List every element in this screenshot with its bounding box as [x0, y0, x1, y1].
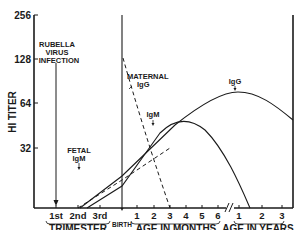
igg-arrow-icon [234, 88, 237, 91]
igm-curve [87, 121, 250, 208]
igg-curve [80, 92, 293, 208]
igg-label: IgG [229, 77, 242, 86]
x-tick-year-2: 2 [259, 210, 264, 221]
igm-label: IgM [147, 110, 160, 119]
infection-label: RUBELLAVIRUSINFECTION [39, 40, 79, 65]
y-axis-label: HI TITER [7, 90, 18, 132]
x-tick-month-1: 1 [134, 210, 140, 221]
years-label: AGE IN YEARS [222, 223, 294, 230]
x-tick-month-4: 4 [183, 210, 189, 221]
birth-label: BIRTH [112, 221, 132, 228]
y-tick-64: 64 [20, 98, 32, 109]
igm-arrow-icon [152, 123, 155, 126]
x-tick-year-1: 1 [236, 210, 242, 221]
x-tick-3rd: 3rd [93, 210, 108, 221]
fetal-label: FETALIgM [67, 146, 91, 163]
trimester-label: TRIMESTER [49, 223, 108, 230]
months-label: AGE IN MONTHS [136, 223, 217, 230]
y-tick-128: 128 [14, 54, 31, 65]
birth-arrow-icon [121, 208, 124, 211]
x-tick-month-2: 2 [151, 210, 156, 221]
titer-chart: 256 128 64 32 HI TITER 1st 2nd 3rd 1 2 3… [0, 0, 301, 230]
maternal-label: MATERNALIgG [127, 72, 169, 89]
y-tick-256: 256 [14, 10, 31, 21]
x-tick-1st: 1st [49, 210, 64, 221]
x-tick-month-5: 5 [199, 210, 205, 221]
x-tick-2nd: 2nd [70, 210, 87, 221]
x-tick-month-3: 3 [167, 210, 172, 221]
infection-arrowhead-icon [54, 200, 59, 206]
x-tick-year-3: 3 [279, 210, 284, 221]
y-tick-32: 32 [20, 143, 32, 154]
x-tick-month-6: 6 [215, 210, 220, 221]
fetal-arrow-icon [78, 167, 81, 170]
